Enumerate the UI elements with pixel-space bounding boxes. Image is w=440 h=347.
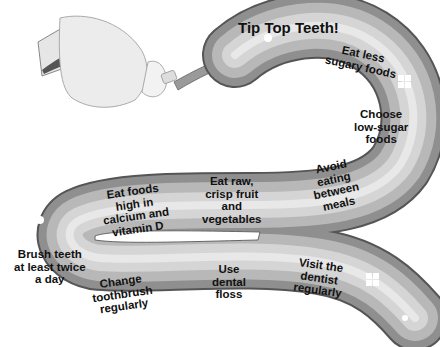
tip-line: vegetables	[202, 213, 261, 226]
tip-line: at least twice	[14, 261, 86, 274]
tip-top-teeth-diagram: Tip Top Teeth! Eat less sugary foods Cho…	[0, 0, 440, 347]
tip-line: and	[202, 200, 261, 213]
tip-choose-low-sugar: Choose low-sugar foods	[354, 108, 408, 146]
tip-line: Brush teeth	[14, 248, 86, 261]
tip-line: Choose	[354, 108, 408, 121]
tip-visit-dentist: Visit the dentist regularly	[293, 256, 346, 300]
tip-avoid-eating-between-meals: Avoid eating between meals	[307, 156, 362, 214]
tip-line: Use	[212, 263, 246, 276]
tip-use-floss: Use dental floss	[212, 263, 246, 301]
tip-line: dental	[212, 276, 246, 289]
title-text: Tip Top Teeth!	[238, 20, 339, 36]
tip-brush-twice: Brush teeth at least twice a day	[14, 248, 86, 286]
tip-eat-calcium: Eat foods high in calcium and vitamin D	[99, 181, 172, 240]
tip-line: foods	[354, 133, 408, 146]
diagram-title: Tip Top Teeth!	[238, 20, 339, 36]
tip-line: Eat raw,	[202, 175, 261, 188]
tip-line: floss	[212, 288, 246, 301]
tip-line: a day	[14, 273, 86, 286]
tip-line: low-sugar	[354, 121, 408, 134]
tip-line: crisp fruit	[202, 188, 261, 201]
tip-eat-raw-crisp: Eat raw, crisp fruit and vegetables	[202, 175, 261, 225]
